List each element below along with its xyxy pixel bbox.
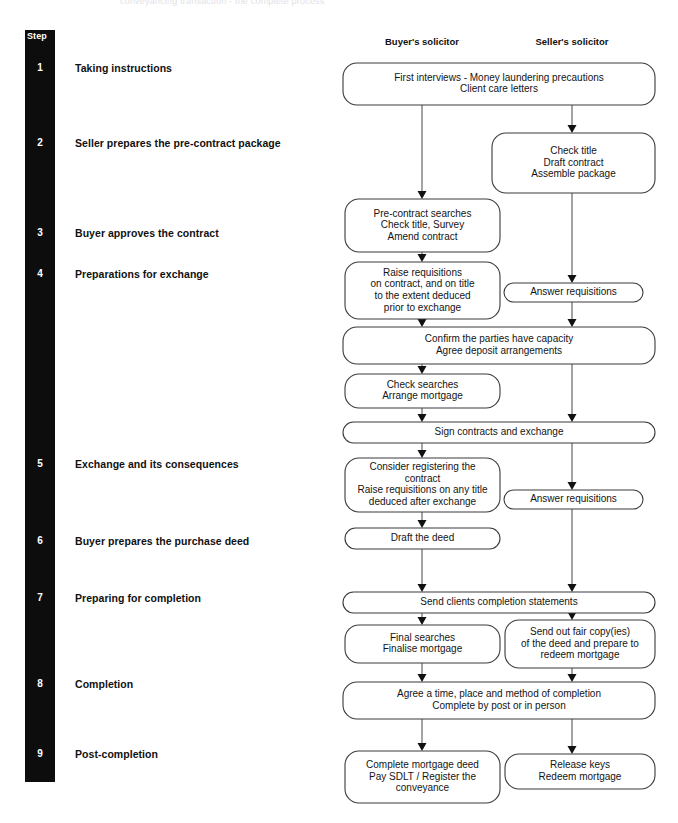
node-text-line: deduced after exchange: [369, 496, 477, 507]
node-send-completion-statements: Send clients completion statements: [343, 592, 655, 613]
node-text-line: Complete mortgage deed: [366, 759, 479, 770]
arrowhead-icon: [418, 366, 427, 374]
node-draft-the-deed: Draft the deed: [345, 528, 500, 549]
node-text-line: Client care letters: [460, 83, 538, 94]
arrowhead-icon: [568, 674, 577, 682]
node-raise-requisitions-pre-exchange: Raise requisitionson contract, and on ti…: [345, 262, 500, 319]
connector-check-searches-to-sign: [418, 408, 427, 422]
node-text-line: Pre-contract searches: [374, 208, 472, 219]
node-answer-requisitions-pre-exchange: Answer requisitions: [504, 283, 643, 302]
node-text-line: Check title: [550, 145, 597, 156]
node-check-title-draft-contract: Check titleDraft contractAssemble packag…: [492, 133, 655, 193]
arrowhead-icon: [418, 254, 427, 262]
arrowhead-icon: [568, 319, 577, 327]
connector-buyer-first-to-precontract: [418, 105, 427, 199]
flowchart-canvas: First interviews - Money laundering prec…: [0, 0, 678, 823]
node-text-line: Answer requisitions: [530, 493, 617, 504]
node-text-line: Draft contract: [543, 157, 603, 168]
node-answer-requisitions-post-exchange: Answer requisitions: [504, 490, 643, 509]
node-text-line: First interviews - Money laundering prec…: [394, 72, 604, 83]
connector-sign-to-answer-req2: [568, 443, 577, 490]
arrowhead-icon: [568, 275, 577, 283]
connector-sign-to-consider: [418, 443, 427, 458]
node-text-line: redeem mortgage: [541, 649, 620, 660]
node-final-searches: Final searchesFinalise mortgage: [345, 625, 500, 663]
connector-seller-first-to-checktitle: [568, 105, 577, 133]
arrowhead-icon: [418, 743, 427, 751]
node-text-line: contract: [405, 473, 441, 484]
connector-agree-to-release-keys: [568, 719, 577, 754]
node-text-line: Amend contract: [387, 231, 457, 242]
node-text-line: Consider registering the: [369, 461, 476, 472]
node-sign-contracts-exchange: Sign contracts and exchange: [343, 422, 655, 443]
node-text-line: Draft the deed: [391, 532, 454, 543]
arrowhead-icon: [418, 450, 427, 458]
arrowhead-icon: [418, 520, 427, 528]
arrowhead-icon: [418, 191, 427, 199]
connector-final-searches-to-agree: [418, 663, 427, 682]
node-text-line: Raise requisitions on any title: [357, 484, 488, 495]
node-confirm-capacity: Confirm the parties have capacityAgree d…: [343, 327, 655, 364]
node-check-searches: Check searchesArrange mortgage: [345, 374, 500, 408]
node-text-line: Complete by post or in person: [432, 700, 565, 711]
connector-confirm-seller-to-sign: [568, 364, 577, 422]
node-text-line: Agree deposit arrangements: [436, 345, 562, 356]
arrowhead-icon: [418, 674, 427, 682]
node-text-line: Release keys: [550, 759, 610, 770]
node-text-line: of the deed and prepare to: [521, 638, 639, 649]
connector-precontract-to-raise-req: [418, 252, 427, 262]
connector-confirm-to-check-searches: [418, 364, 427, 374]
node-text-line: prior to exchange: [384, 302, 462, 313]
node-text-line: Final searches: [390, 632, 455, 643]
node-text-line: Check searches: [387, 379, 459, 390]
conveyancing-process-flowchart: conveyancing transaction - the complete …: [0, 0, 678, 823]
connector-raise-req-to-confirm: [418, 319, 427, 327]
node-text-line: Send clients completion statements: [420, 596, 577, 607]
node-text-line: Sign contracts and exchange: [435, 426, 564, 437]
node-consider-registering: Consider registering thecontractRaise re…: [345, 458, 500, 512]
arrowhead-icon: [418, 319, 427, 327]
node-text-line: Raise requisitions: [383, 267, 462, 278]
node-text-line: Send out fair copy(ies): [530, 626, 630, 637]
arrowhead-icon: [568, 746, 577, 754]
connector-fair-copies-to-agree: [568, 668, 577, 682]
connector-agree-to-complete-deed: [418, 719, 427, 751]
node-text-line: to the extent deduced: [374, 290, 470, 301]
node-release-keys: Release keysRedeem mortgage: [505, 754, 655, 789]
connector-answer-req2-to-send-statements: [568, 509, 577, 592]
node-text-line: Arrange mortgage: [382, 390, 463, 401]
connector-draft-deed-to-send-statements: [418, 549, 427, 592]
node-complete-mortgage-deed: Complete mortgage deedPay SDLT / Registe…: [345, 751, 500, 803]
node-text-line: Pay SDLT / Register the: [369, 771, 476, 782]
node-text-line: Check title, Survey: [381, 219, 464, 230]
connector-checktitle-to-answer-req: [568, 193, 577, 283]
node-text-line: Redeem mortgage: [539, 771, 622, 782]
node-first-interviews: First interviews - Money laundering prec…: [343, 63, 655, 105]
node-text-line: on contract, and on title: [371, 278, 475, 289]
connector-answer-req-to-confirm: [568, 302, 577, 327]
node-agree-time-place: Agree a time, place and method of comple…: [343, 682, 655, 719]
arrowhead-icon: [568, 584, 577, 592]
arrowhead-icon: [568, 482, 577, 490]
arrowhead-icon: [568, 125, 577, 133]
arrowhead-icon: [418, 617, 427, 625]
node-text-line: Finalise mortgage: [383, 643, 463, 654]
node-pre-contract-searches: Pre-contract searchesCheck title, Survey…: [345, 199, 500, 252]
node-text-line: conveyance: [396, 782, 450, 793]
connector-consider-to-draft-deed: [418, 512, 427, 528]
nodes-layer: First interviews - Money laundering prec…: [343, 63, 655, 803]
node-text-line: Answer requisitions: [530, 286, 617, 297]
node-text-line: Confirm the parties have capacity: [425, 333, 573, 344]
node-text-line: Agree a time, place and method of comple…: [397, 688, 601, 699]
arrowhead-icon: [418, 584, 427, 592]
connector-send-statements-to-final-searches: [418, 613, 427, 625]
node-send-fair-copies: Send out fair copy(ies)of the deed and p…: [505, 620, 655, 668]
arrowhead-icon: [568, 414, 577, 422]
arrowhead-icon: [418, 414, 427, 422]
node-text-line: Assemble package: [531, 168, 616, 179]
